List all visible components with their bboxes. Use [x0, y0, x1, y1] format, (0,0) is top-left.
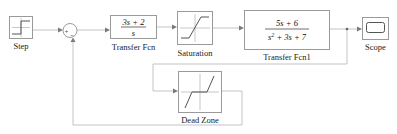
scope-label: Scope: [365, 42, 386, 52]
tf-numerator: 3s + 2: [122, 17, 146, 27]
arrow-icon: [239, 26, 244, 31]
step-label: Step: [13, 41, 28, 51]
tf-label: Transfer Fcn: [112, 42, 156, 52]
tf1-numerator: 5s + 6: [276, 18, 299, 28]
scope-block[interactable]: Scope: [363, 18, 389, 53]
sum-plus-sign: +: [65, 28, 69, 34]
arrow-icon: [58, 28, 63, 33]
scope-screen-icon: [367, 23, 385, 33]
saturation-label: Saturation: [178, 48, 214, 58]
arrow-icon: [71, 38, 76, 43]
arrow-icon: [105, 28, 110, 33]
simulink-canvas: Step + − 3s + 2 s Transfer Fcn Saturatio…: [0, 0, 397, 134]
transfer-fcn-block[interactable]: 3s + 2 s Transfer Fcn: [111, 16, 157, 53]
saturation-block[interactable]: Saturation: [178, 12, 214, 59]
tf1-label: Transfer Fcn1: [263, 52, 311, 62]
transfer-fcn1-block[interactable]: 5s + 6 s2 + 3s + 7 Transfer Fcn1: [245, 11, 330, 63]
dead-zone-block[interactable]: Dead Zone: [179, 72, 222, 126]
step-block[interactable]: Step: [10, 17, 33, 52]
arrow-icon: [172, 25, 177, 30]
arrow-icon: [173, 89, 178, 94]
tf1-denominator: s2 + 3s + 7: [268, 32, 307, 42]
sum-minus-sign: −: [70, 32, 74, 38]
branch-point: [346, 28, 349, 31]
sum-block[interactable]: + −: [63, 24, 77, 39]
deadzone-label: Dead Zone: [181, 115, 219, 125]
arrow-icon: [357, 27, 362, 32]
